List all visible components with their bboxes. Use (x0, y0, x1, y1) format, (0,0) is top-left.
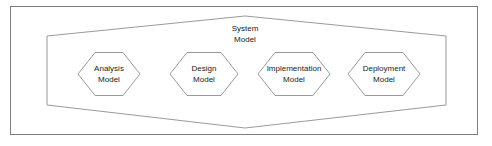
design-model-label-line2: Model (193, 75, 215, 84)
diagram-svg: System Model Analysis Model Design Model… (0, 0, 492, 146)
system-model-label-line1: System (232, 24, 259, 33)
implementation-model-label-line2: Model (283, 75, 305, 84)
implementation-model-label-line1: Implementation (267, 64, 322, 73)
deployment-model-label-line2: Model (373, 75, 395, 84)
analysis-model-label-line2: Model (98, 75, 120, 84)
deployment-model-label-line1: Deployment (363, 64, 406, 73)
system-model-label-line2: Model (234, 35, 256, 44)
analysis-model-label-line1: Analysis (94, 64, 124, 73)
design-model-label-line1: Design (192, 64, 217, 73)
diagram-canvas: System Model Analysis Model Design Model… (0, 0, 492, 146)
